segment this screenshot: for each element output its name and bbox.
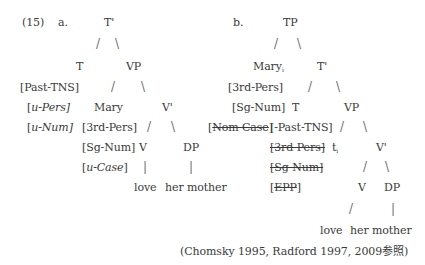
branch-left-icon: / [96, 38, 100, 51]
branch-vertical-icon: | [189, 161, 193, 174]
tree-a-object-her-mother: her mother [165, 181, 227, 194]
tree-b-root-tp: TP [283, 16, 298, 29]
tree-b-trace: ti [332, 141, 338, 157]
tree-b-3rd-pers-feature: [3rd-Pers] [228, 81, 283, 94]
branch-left-icon: / [274, 38, 278, 51]
branch-right-icon: \ [297, 38, 301, 51]
tree-a-t-head: T [76, 60, 83, 73]
branch-right-icon: \ [115, 38, 119, 51]
branch-left-icon: / [349, 203, 353, 216]
branch-left-icon: / [308, 81, 312, 94]
branch-left-icon: / [363, 161, 367, 174]
tree-a-u-pers-feature: [u-Pers] [27, 101, 70, 114]
tree-a-past-tns-feature: [Past-TNS] [20, 81, 79, 94]
tree-a-label: a. [58, 16, 68, 29]
tree-b-sg-num-feature-checked: [Sg-Num] [270, 161, 323, 174]
tree-a-u-case-feature: [u-Case] [82, 161, 128, 174]
tree-b-label: b. [233, 16, 243, 29]
branch-right-icon: \ [363, 121, 367, 134]
branch-left-icon: / [111, 81, 115, 94]
tree-b-verb-love: love [320, 224, 342, 237]
tree-b-v-bar: V' [376, 141, 387, 154]
tree-b-t-bar: T' [317, 60, 327, 73]
citation: (Chomsky 1995, Radford 1997, 2009参照) [180, 245, 408, 258]
tree-b-object-her-mother: her mother [350, 224, 412, 237]
tree-a-dp: DP [183, 141, 199, 154]
tree-b-epp-feature-checked: [EPP] [270, 181, 301, 194]
tree-a-verb-love: love [134, 181, 156, 194]
tree-a-3rd-pers-feature: [3rd-Pers] [82, 121, 137, 134]
branch-vertical-icon: | [391, 203, 395, 216]
branch-right-icon: \ [336, 81, 340, 94]
tree-b-nom-case-feature-checked: [Nom Case] [208, 121, 273, 134]
example-number: (15) [22, 16, 44, 29]
tree-a-v-bar: V' [162, 101, 173, 114]
tree-a-sg-num-feature: [Sg-Num] [82, 141, 135, 154]
tree-a-root-t-bar: T' [104, 16, 114, 29]
branch-left-icon: / [147, 121, 151, 134]
branch-vertical-icon: | [143, 161, 147, 174]
tree-a-v: V [139, 141, 147, 154]
tree-b-dp: DP [384, 181, 400, 194]
tree-b-subject-mary: Maryi [253, 60, 284, 76]
tree-a-subject-mary: Mary [94, 101, 123, 114]
tree-a-u-num-feature: [u-Num] [27, 121, 73, 134]
tree-b-sg-num-feature: [Sg-Num] [232, 101, 285, 114]
tree-b-v: V [358, 181, 366, 194]
branch-left-icon: / [340, 121, 344, 134]
branch-right-icon: \ [171, 121, 175, 134]
tree-b-t-head: T [292, 101, 299, 114]
tree-b-vp: VP [344, 101, 359, 114]
tree-b-3rd-pers-feature-checked: [3rd-Pers] [270, 141, 325, 154]
branch-right-icon: \ [141, 81, 145, 94]
tree-a-vp: VP [126, 60, 141, 73]
tree-b-past-tns-feature: [-Past-TNS] [270, 121, 333, 134]
branch-right-icon: \ [385, 161, 389, 174]
